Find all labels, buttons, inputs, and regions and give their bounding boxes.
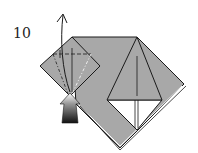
origami-diagram <box>0 0 198 153</box>
